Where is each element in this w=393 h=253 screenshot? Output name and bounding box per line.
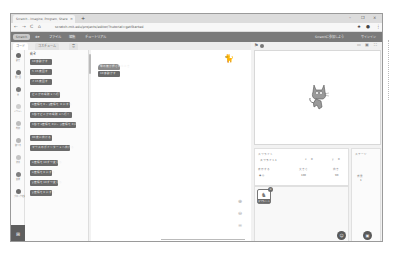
- stage-canvas[interactable]: [254, 50, 381, 145]
- add-extension-button[interactable]: ⊞: [11, 225, 25, 242]
- sprite-label: スプライト: [258, 152, 273, 156]
- size-label: 大きさ: [299, 167, 308, 171]
- menu-kebab-icon[interactable]: ⋮: [376, 24, 381, 29]
- category-dot-icon: [16, 104, 21, 109]
- url-input[interactable]: scratch.mit.edu/projects/editor/?tutoria…: [55, 25, 143, 29]
- category-dot-icon: [16, 155, 21, 160]
- window-close-icon[interactable]: ×: [373, 15, 376, 20]
- sign-in-link[interactable]: サインイン: [361, 34, 376, 40]
- direction-input[interactable]: 90: [335, 174, 338, 177]
- category-dot-icon: [16, 53, 21, 58]
- new-tab-icon[interactable]: +: [81, 15, 85, 21]
- stage-header: ⚑ ▭ ▣ ⛶: [251, 42, 383, 50]
- home-icon[interactable]: ⌂: [38, 24, 41, 29]
- zoom-in-icon[interactable]: ⊕: [238, 198, 242, 204]
- sprite-info-panel: スプライト スプライト1 x 0 y 0 表示する ◉ ◎ 大きさ 100 向き…: [254, 148, 349, 186]
- category-my-blocks[interactable]: ブロック定義: [14, 189, 22, 198]
- page-margin-dotted-line: [388, 40, 389, 100]
- add-sprite-button[interactable]: ☺: [337, 231, 346, 240]
- category-events[interactable]: イベント: [14, 104, 22, 113]
- category-looks[interactable]: 見た目: [14, 70, 22, 79]
- category-control[interactable]: 制御: [14, 121, 22, 130]
- join-scratch-link[interactable]: Scratchに参加しよう: [315, 34, 344, 40]
- backdrops-count: 1: [360, 179, 362, 182]
- scratch-logo[interactable]: Scratch: [13, 34, 30, 40]
- block-move-steps[interactable]: 10 歩動かす: [30, 59, 52, 65]
- cat-thumb-icon: ♞: [261, 191, 266, 198]
- script-hat-block[interactable]: 緑の旗が押されたとき: [98, 64, 120, 70]
- sprite-name-input[interactable]: スプライト1: [260, 158, 277, 162]
- back-icon[interactable]: ←: [14, 24, 18, 29]
- size-input[interactable]: 100: [301, 174, 306, 177]
- category-dot-icon: [16, 121, 21, 126]
- sprite-ghost-icon: 🐈: [224, 54, 234, 63]
- workspace-scrollbar[interactable]: [161, 239, 245, 240]
- delete-sprite-icon[interactable]: ×: [268, 187, 273, 192]
- profile-icon[interactable]: ●: [366, 24, 370, 29]
- block-glide-to[interactable]: 1 秒でどこかの場所 ▾ へ行く: [30, 112, 72, 118]
- category-menu: 動き 見た目 音 イベント 制御 調べる 演算 変数: [11, 50, 25, 225]
- block-go-to[interactable]: どこかの場所 ▾ へ行く: [30, 92, 60, 98]
- zoom-out-icon[interactable]: ⊖: [238, 210, 242, 216]
- large-stage-icon[interactable]: ▣: [365, 42, 369, 47]
- language-menu[interactable]: ⊕▾: [35, 34, 40, 40]
- file-menu[interactable]: ファイル: [49, 34, 61, 40]
- scratch-cat-sprite[interactable]: [306, 81, 332, 113]
- forward-icon[interactable]: →: [22, 24, 26, 29]
- category-sensing[interactable]: 調べる: [14, 138, 22, 147]
- script-move-block[interactable]: 10 歩動かす: [98, 71, 120, 77]
- screenshot-frame: Scratch - Imagine, Program, Share × + – …: [10, 13, 383, 242]
- fullscreen-icon[interactable]: ⛶: [374, 42, 377, 47]
- browser-tab[interactable]: Scratch - Imagine, Program, Share ×: [13, 15, 75, 23]
- x-input[interactable]: 0: [311, 158, 313, 161]
- show-label: 表示する: [258, 167, 270, 171]
- category-variables[interactable]: 変数: [14, 172, 22, 181]
- minimize-icon[interactable]: –: [349, 15, 351, 20]
- small-stage-icon[interactable]: ▭: [357, 42, 361, 47]
- tab-code[interactable]: コード: [13, 43, 28, 50]
- add-backdrop-button[interactable]: ▣: [363, 231, 372, 240]
- category-dot-icon: [16, 189, 21, 194]
- category-dot-icon: [16, 87, 21, 92]
- tab-costumes[interactable]: コスチューム: [35, 43, 59, 50]
- category-sound[interactable]: 音: [14, 87, 22, 96]
- block-set-x[interactable]: x座標を 0 にする: [30, 170, 52, 176]
- category-dot-icon: [16, 70, 21, 75]
- sprite-thumbnail[interactable]: ♞ スプライト1 ×: [257, 189, 271, 204]
- sprite-list: ♞ スプライト1 × ☺: [254, 186, 349, 242]
- address-bar-row: ← → C ⌂ scratch.mit.edu/projects/editor/…: [11, 23, 382, 32]
- palette-heading: 動き: [30, 52, 36, 56]
- code-workspace[interactable]: 緑の旗が押されたとき 10 歩動かす 🐈 ⊕ ⊖ =: [91, 50, 251, 242]
- close-icon[interactable]: ×: [70, 17, 73, 21]
- browser-tab-strip: Scratch - Imagine, Program, Share × + – …: [11, 14, 382, 23]
- edit-menu[interactable]: 編集: [69, 34, 75, 40]
- show-toggle-icon[interactable]: ◉ ◎: [259, 174, 264, 177]
- block-set-y[interactable]: y座標を 0 にする: [30, 190, 52, 196]
- stage-target-pane[interactable]: ステージ 背景 1 ▣: [351, 148, 381, 242]
- direction-label: 向き: [333, 167, 339, 171]
- category-dot-icon: [16, 138, 21, 143]
- block-glide-to-xy[interactable]: 1 秒でx座標を 0 に、y座標を 0 に: [30, 122, 76, 128]
- category-operators[interactable]: 演算: [14, 155, 22, 164]
- tab-sounds[interactable]: 音: [69, 43, 78, 50]
- block-point-towards[interactable]: マウスのポインター ▾ へ向ける: [30, 145, 70, 151]
- block-turn-right[interactable]: ↻ 15 度回す: [30, 69, 52, 75]
- reload-icon[interactable]: C: [30, 24, 33, 29]
- backdrops-label: 背景: [357, 174, 363, 178]
- block-go-to-xy[interactable]: x座標を 0 、y座標を 0 にする: [30, 102, 70, 108]
- bookmark-star-icon[interactable]: ★: [357, 24, 361, 29]
- category-motion[interactable]: 動き: [14, 53, 22, 62]
- green-flag-icon[interactable]: ⚑: [254, 42, 258, 48]
- stop-icon[interactable]: [260, 44, 264, 48]
- y-input[interactable]: 0: [338, 158, 340, 161]
- tutorials-menu[interactable]: チュートリアル: [85, 34, 106, 40]
- maximize-icon[interactable]: ❐: [361, 15, 365, 20]
- zoom-reset-icon[interactable]: =: [238, 222, 242, 228]
- block-turn-left[interactable]: ↺ 15 度回す: [30, 79, 52, 85]
- stage-label: ステージ: [355, 152, 367, 156]
- block-change-x[interactable]: x座標を 10 ずつ変える: [30, 160, 58, 166]
- block-change-y[interactable]: y座標を 10 ずつ変える: [30, 180, 58, 186]
- y-label: y: [332, 158, 334, 161]
- editor-tabs: コード コスチューム 音: [11, 42, 251, 50]
- block-point-direction[interactable]: 90 度に向ける: [30, 135, 52, 141]
